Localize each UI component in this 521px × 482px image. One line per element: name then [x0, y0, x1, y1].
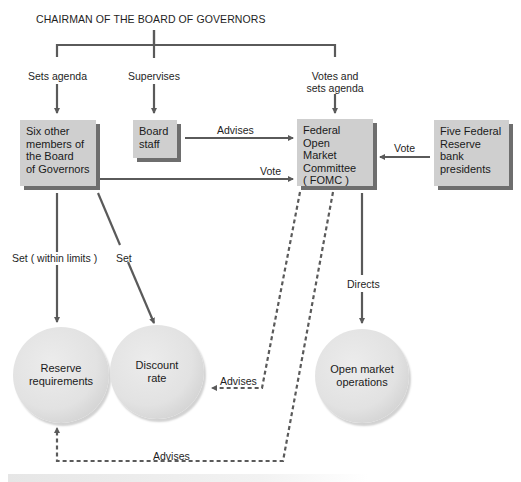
node-line: Five Federal	[440, 125, 503, 138]
label-vote-board-fomc: Vote	[260, 165, 281, 177]
label-set-discount: Set	[116, 252, 132, 264]
node-line: Open market	[330, 363, 394, 376]
label-votes-and-sets-agenda: Votes and sets agenda	[305, 70, 365, 94]
node-line: Reserve	[29, 362, 93, 375]
footer-band	[8, 474, 368, 482]
node-line: operations	[330, 376, 394, 389]
label-supervises: Supervises	[128, 70, 180, 82]
label-sets-agenda: Sets agenda	[28, 70, 87, 82]
node-line: Reserve bank	[440, 138, 503, 163]
chairman-title: CHAIRMAN OF THE BOARD OF GOVERNORS	[36, 13, 266, 25]
node-board-staff: Board staff	[133, 120, 177, 158]
label-advises-fomc-reserve: Advises	[153, 450, 190, 462]
label-set-within-limits: Set ( within limits )	[12, 252, 97, 264]
node-open-market-operations: Open market operations	[315, 329, 409, 423]
node-line: of Governors	[26, 163, 90, 176]
node-line: the Board	[26, 150, 90, 163]
node-line: Federal Open	[303, 124, 367, 149]
node-line: Board	[139, 125, 171, 138]
node-line: Six other	[26, 125, 90, 138]
node-line: members of	[26, 138, 90, 151]
label-line: Votes and	[305, 70, 365, 82]
node-reserve-requirements: Reserve requirements	[13, 327, 109, 423]
node-line: presidents	[440, 163, 503, 176]
label-vote-presidents-fomc: Vote	[394, 142, 415, 154]
node-line: staff	[139, 138, 171, 151]
label-advises-staff-fomc: Advises	[217, 124, 254, 136]
node-line: Discount	[136, 359, 179, 372]
node-line: ( FOMC )	[303, 174, 367, 187]
label-directs: Directs	[347, 278, 380, 290]
node-line: requirements	[29, 375, 93, 388]
node-five-reserve-presidents: Five Federal Reserve bank presidents	[434, 120, 509, 186]
node-fomc: Federal Open Market Committee ( FOMC )	[297, 119, 373, 186]
node-line: Committee	[303, 162, 367, 175]
node-line: Market	[303, 149, 367, 162]
chairman-connector	[57, 30, 335, 57]
label-line: sets agenda	[305, 82, 365, 94]
node-six-board-members: Six other members of the Board of Govern…	[20, 120, 96, 186]
label-advises-fomc-discount: Advises	[220, 375, 257, 387]
node-line: rate	[136, 372, 179, 385]
node-discount-rate: Discount rate	[110, 325, 204, 419]
